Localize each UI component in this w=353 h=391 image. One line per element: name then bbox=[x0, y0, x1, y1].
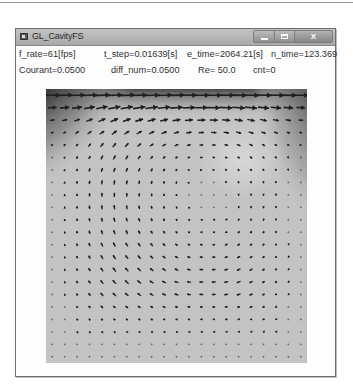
maximize-icon bbox=[281, 34, 288, 39]
stats-row-1: f_rate=61[fps] t_step=0.01639[s] e_time=… bbox=[19, 47, 332, 63]
velocity-vector-field bbox=[46, 89, 307, 363]
maximize-button[interactable] bbox=[275, 30, 295, 43]
time-step: t_step=0.01639[s] bbox=[104, 49, 177, 59]
stats-row-2: Courant=0.0500 diff_num=0.0500 Re= 50.0 … bbox=[19, 63, 332, 79]
window-title: GL_CavityFS bbox=[32, 31, 83, 41]
close-icon: X bbox=[311, 32, 316, 41]
stats-panel: f_rate=61[fps] t_step=0.01639[s] e_time=… bbox=[19, 47, 332, 79]
minimize-icon bbox=[261, 38, 268, 40]
elapsed-time: e_time=2064.21[s] bbox=[187, 49, 263, 59]
title-bar[interactable]: GL_CavityFS X bbox=[16, 29, 335, 46]
app-window: GL_CavityFS X f_rate=61[fps] t_step=0.01… bbox=[15, 28, 336, 377]
minimize-button[interactable] bbox=[253, 30, 275, 43]
top-divider bbox=[0, 2, 353, 3]
close-button[interactable]: X bbox=[295, 30, 333, 43]
courant-number: Courant=0.0500 bbox=[19, 65, 85, 75]
window-controls: X bbox=[253, 30, 333, 43]
diffusion-number: diff_num=0.0500 bbox=[111, 65, 180, 75]
app-icon bbox=[20, 33, 28, 40]
counter: cnt=0 bbox=[253, 65, 276, 75]
reynolds-number: Re= 50.0 bbox=[198, 65, 236, 75]
normalized-time: n_time=123.369 bbox=[271, 49, 337, 59]
frame-rate: f_rate=61[fps] bbox=[19, 49, 75, 59]
cavity-flow-canvas[interactable] bbox=[46, 89, 307, 363]
